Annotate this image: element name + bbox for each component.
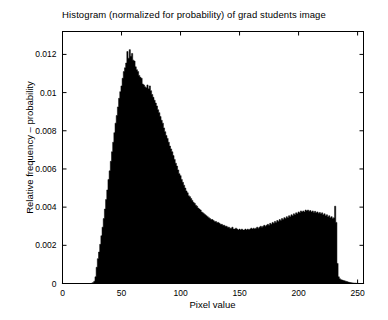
x-tick-label: 200 xyxy=(291,288,305,298)
y-tick-label: 0 xyxy=(52,279,57,289)
histogram-bars xyxy=(62,50,364,284)
x-tick-label: 250 xyxy=(351,288,365,298)
histogram-plot: 05010015020025000.0020.0040.0060.0080.01… xyxy=(0,0,388,320)
y-tick-label: 0.012 xyxy=(35,49,57,59)
y-tick-label: 0.01 xyxy=(40,88,57,98)
histogram-area xyxy=(62,50,364,284)
y-tick-label: 0.006 xyxy=(35,164,57,174)
x-tick-label: 50 xyxy=(117,288,127,298)
y-tick-label: 0.008 xyxy=(35,126,57,136)
x-tick-label: 100 xyxy=(173,288,187,298)
x-tick-label: 150 xyxy=(232,288,246,298)
y-tick-label: 0.002 xyxy=(35,240,57,250)
y-tick-label: 0.004 xyxy=(35,202,57,212)
x-tick-label: 0 xyxy=(60,288,65,298)
figure-canvas: Histogram (normalized for probability) o… xyxy=(0,0,388,320)
